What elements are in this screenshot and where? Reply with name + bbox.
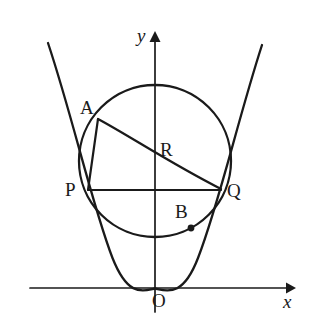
segment-ap — [88, 119, 98, 190]
point-label-p: P — [65, 180, 76, 199]
point-label-q: Q — [227, 181, 241, 200]
point-label-r: R — [160, 140, 173, 159]
point-marker-b — [188, 225, 195, 232]
geometry-figure: A P Q R B O y x — [0, 0, 313, 336]
point-label-b: B — [175, 202, 188, 221]
point-label-a: A — [80, 98, 94, 117]
figure-canvas — [0, 0, 313, 336]
y-axis-label: y — [137, 26, 145, 45]
x-axis-label: x — [283, 292, 291, 311]
y-axis-arrow-icon — [150, 31, 161, 42]
point-label-o: O — [152, 291, 166, 310]
